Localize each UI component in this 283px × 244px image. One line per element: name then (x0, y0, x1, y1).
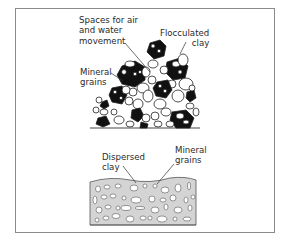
label-dispersed-clay: Dispersed clay (102, 152, 145, 173)
label-mineral-grains-top: Mineral grains (80, 67, 112, 88)
label-flocculated-clay: Flocculated clay (160, 28, 209, 49)
soil-structure-diagram (0, 0, 283, 244)
label-mineral-grains-bottom: Mineral grains (175, 145, 207, 166)
label-spaces-air-water: Spaces for air and water movement (79, 15, 138, 46)
dispersed-soil (90, 177, 196, 225)
